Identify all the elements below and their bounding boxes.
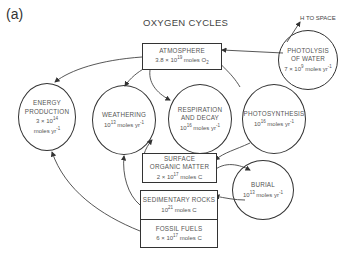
fossil-fuels-name: FOSSIL FUELS <box>156 225 203 234</box>
respiration-name-line1: RESPIRATION <box>178 106 222 115</box>
weathering-name: WEATHERING <box>102 111 146 120</box>
energy-production-circle: ENERGY PRODUCTION 3 × 1014 moles yr-1 <box>18 83 76 151</box>
respiration-value: 1016 moles yr-1 <box>180 123 220 132</box>
photolysis-name-line1: PHOTOLYSIS <box>287 47 329 56</box>
fossil-fuels-box: FOSSIL FUELS 6 × 1017 moles C <box>140 219 218 248</box>
sedimentary-value: 1021 moles C <box>161 205 196 214</box>
photolysis-value: 7 × 109 moles yr-1 <box>284 64 332 73</box>
sedimentary-rocks-box: SEDIMENTARY ROCKS 1021 moles C <box>140 190 218 220</box>
photosynthesis-value: 1016 moles yr-1 <box>254 119 294 128</box>
diagram-title: OXYGEN CYCLES <box>143 17 228 28</box>
fossil-fuels-value: 6 × 1017 moles C <box>156 233 202 242</box>
surface-value: 2 × 1017 moles C <box>157 172 203 181</box>
atmosphere-value: 3.8 × 1019 moles O2 <box>155 55 208 66</box>
photolysis-of-water-circle: PHOTOLYSIS OF WATER 7 × 109 moles yr-1 <box>278 30 338 90</box>
surface-organic-matter-box: SURFACE ORGANIC MATTER 2 × 1017 moles C <box>142 153 217 183</box>
energy-name-line1: ENERGY <box>33 99 61 108</box>
burial-value: 1013 moles yr-1 <box>243 190 283 199</box>
sedimentary-name: SEDIMENTARY ROCKS <box>143 196 215 205</box>
burial-circle: BURIAL 1013 moles yr-1 <box>232 160 294 220</box>
energy-value-a: 3 × 1014 <box>36 116 58 125</box>
weathering-circle: WEATHERING 1013 moles yr-1 <box>92 85 156 155</box>
respiration-name-line2: AND DECAY <box>181 114 219 123</box>
photolysis-name-line2: OF WATER <box>291 55 325 64</box>
photosynthesis-name: PHOTOSYNTHESIS <box>244 110 305 119</box>
respiration-and-decay-circle: RESPIRATION AND DECAY 1016 moles yr-1 <box>168 84 232 154</box>
burial-name: BURIAL <box>251 181 275 190</box>
panel-label: (a) <box>6 6 23 22</box>
h-to-space-label: H TO SPACE <box>300 15 336 21</box>
energy-value-b: moles yr-1 <box>34 126 61 135</box>
surface-name-line2: ORGANIC MATTER <box>150 163 209 172</box>
weathering-value: 1013 moles yr-1 <box>104 120 144 129</box>
surface-name-line1: SURFACE <box>164 155 195 164</box>
energy-name-line2: PRODUCTION <box>25 108 69 117</box>
atmosphere-name: ATMOSPHERE <box>159 47 205 56</box>
atmosphere-box: ATMOSPHERE 3.8 × 1019 moles O2 <box>142 43 222 70</box>
photosynthesis-circle: PHOTOSYNTHESIS 1016 moles yr-1 <box>242 84 306 154</box>
